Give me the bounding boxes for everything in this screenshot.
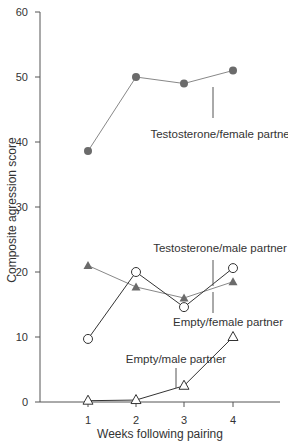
x-tick-label: 4 bbox=[230, 414, 236, 426]
series-line bbox=[88, 337, 233, 401]
open-circle-marker bbox=[132, 268, 141, 277]
x-axis-label: Weeks following pairing bbox=[97, 427, 223, 441]
open-circle-marker bbox=[180, 303, 189, 312]
y-tick-label: 0 bbox=[22, 396, 28, 408]
open-triangle-marker bbox=[228, 332, 238, 341]
filled-triangle-marker bbox=[84, 261, 93, 269]
series-label: Empty/female partner bbox=[173, 316, 283, 328]
y-tick-label: 10 bbox=[16, 331, 28, 343]
open-circle-marker bbox=[229, 264, 238, 273]
series-line bbox=[88, 266, 233, 299]
x-tick-label: 2 bbox=[133, 414, 139, 426]
filled-circle-marker bbox=[84, 147, 92, 155]
y-tick-label: 60 bbox=[16, 6, 28, 18]
series-labels: Testosterone/female partnerTestosterone/… bbox=[126, 87, 288, 388]
series-label: Testosterone/female partner bbox=[150, 128, 288, 140]
line-chart: 01020304050601234 Testosterone/female pa… bbox=[0, 0, 288, 446]
x-tick-label: 1 bbox=[85, 414, 91, 426]
filled-circle-marker bbox=[132, 73, 140, 81]
filled-triangle-marker bbox=[229, 277, 238, 285]
open-circle-marker bbox=[84, 334, 93, 343]
series-line bbox=[88, 268, 233, 339]
series-label: Testosterone/male partner bbox=[153, 242, 287, 254]
open-triangle-marker bbox=[83, 395, 93, 404]
filled-triangle-marker bbox=[132, 282, 141, 290]
series-label: Empty/male partner bbox=[126, 353, 227, 365]
x-tick-label: 3 bbox=[181, 414, 187, 426]
y-tick-label: 50 bbox=[16, 71, 28, 83]
filled-circle-marker bbox=[229, 67, 237, 75]
filled-circle-marker bbox=[180, 80, 188, 88]
y-axis-label: Composite agression score bbox=[5, 137, 19, 283]
